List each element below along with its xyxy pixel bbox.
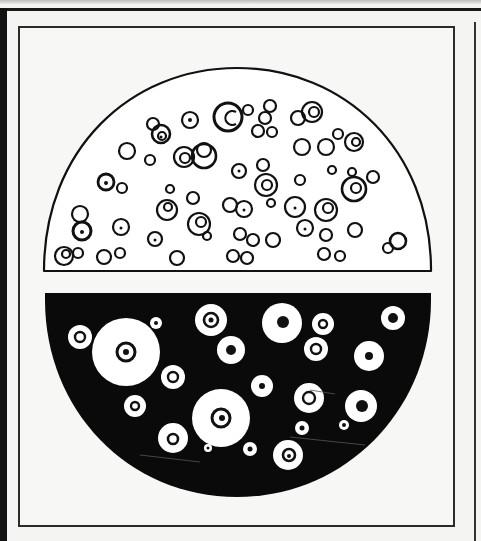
bottom-semicircle <box>45 293 431 497</box>
top-semicircle <box>44 68 431 271</box>
large-halo-cell-3 <box>262 303 302 343</box>
large-halo-cell-2 <box>192 389 250 447</box>
large-halo-cell-1 <box>92 318 160 386</box>
cell-illustration <box>0 0 481 541</box>
